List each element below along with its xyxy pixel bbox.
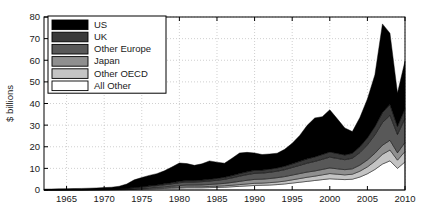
y-tick-label: 30 — [29, 120, 40, 131]
legend-label-japan: Japan — [94, 55, 120, 66]
y-tick-label: 20 — [29, 141, 40, 152]
legend-swatch-other-europe — [52, 44, 88, 54]
y-tick-label: 80 — [29, 11, 40, 22]
legend-swatch-uk — [52, 32, 88, 42]
x-tick-label: 2005 — [357, 193, 378, 204]
y-tick-label: 50 — [29, 76, 40, 87]
legend-swatch-us — [52, 20, 88, 30]
y-tick-label: 60 — [29, 55, 40, 66]
y-tick-label: 70 — [29, 33, 40, 44]
x-tick-label: 1985 — [206, 193, 227, 204]
y-tick-label: 10 — [29, 163, 40, 174]
y-axis-title: $ billions — [4, 85, 15, 122]
x-tick-label: 1990 — [244, 193, 265, 204]
x-tick-label: 1995 — [282, 193, 303, 204]
x-tick-label: 1965 — [56, 193, 77, 204]
legend-swatch-japan — [52, 57, 88, 67]
x-tick-label: 2010 — [394, 193, 415, 204]
chart-container: 0102030405060708019651970197519801985199… — [0, 0, 425, 221]
legend-label-other-europe: Other Europe — [94, 43, 151, 54]
legend-label-uk: UK — [94, 31, 108, 42]
legend-label-all-other: All Other — [94, 80, 131, 91]
legend: USUKOther EuropeJapanOther OECDAll Other — [48, 16, 166, 93]
legend-label-us: US — [94, 19, 107, 30]
x-tick-label: 1980 — [169, 193, 190, 204]
legend-swatch-other-oecd — [52, 69, 88, 79]
legend-label-other-oecd: Other OECD — [94, 68, 148, 79]
x-tick-label: 1975 — [131, 193, 152, 204]
y-tick-label: 40 — [29, 98, 40, 109]
x-tick-label: 2000 — [319, 193, 340, 204]
legend-swatch-all-other — [52, 81, 88, 91]
x-tick-label: 1970 — [94, 193, 115, 204]
stacked-area-chart: 0102030405060708019651970197519801985199… — [0, 0, 425, 221]
y-tick-label: 0 — [35, 184, 40, 195]
